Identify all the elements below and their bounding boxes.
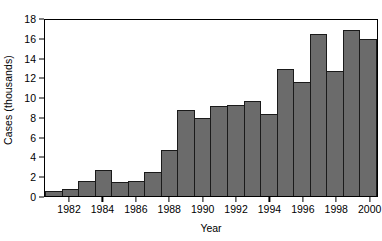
y-tick-label: 6 <box>30 132 36 143</box>
x-tick-mark <box>302 197 303 202</box>
bar <box>326 71 344 196</box>
bar <box>161 150 179 196</box>
x-tick-label: 2000 <box>358 204 381 216</box>
bar-series <box>45 20 377 196</box>
bar <box>177 110 195 196</box>
y-axis-title-text: Cases (thousands) <box>2 55 14 145</box>
bar <box>194 118 212 196</box>
bar <box>244 101 262 196</box>
bar <box>343 30 361 196</box>
x-tick-label: 1988 <box>158 204 181 216</box>
x-tick-label: 1992 <box>224 204 247 216</box>
x-tick-mark <box>369 197 370 202</box>
bar <box>62 189 80 196</box>
y-tick-label: 0 <box>30 192 36 203</box>
x-tick-label: 1996 <box>291 204 314 216</box>
x-tick-label: 1998 <box>325 204 348 216</box>
x-axis-title: Year <box>44 222 378 234</box>
y-tick-label: 8 <box>30 113 36 124</box>
bar <box>227 105 245 196</box>
y-tick-label: 10 <box>24 93 36 104</box>
bar <box>277 69 295 196</box>
x-tick-mark <box>135 197 136 202</box>
x-tick-mark <box>68 197 69 202</box>
x-tick-label: 1986 <box>124 204 147 216</box>
x-tick-mark <box>202 197 203 202</box>
bar <box>78 181 96 196</box>
bar <box>260 114 278 196</box>
y-axis-tick-labels: 024681012141618 <box>14 19 36 197</box>
x-tick-mark <box>169 197 170 202</box>
x-tick-mark <box>102 197 103 202</box>
x-axis-tick-labels: 1982198419861988199019921994199619982000 <box>44 204 378 220</box>
x-tick-mark <box>235 197 236 202</box>
y-tick-label: 4 <box>30 152 36 163</box>
bar <box>95 170 113 196</box>
bar <box>210 106 228 196</box>
x-tick-mark <box>336 197 337 202</box>
y-tick-label: 18 <box>24 14 36 25</box>
bar <box>144 172 162 196</box>
bar <box>128 181 146 196</box>
bar <box>293 82 311 196</box>
bar <box>359 39 377 196</box>
bar <box>310 34 328 196</box>
y-tick-label: 16 <box>24 34 36 45</box>
x-tick-label: 1994 <box>258 204 281 216</box>
bar-chart-figure: Cases (thousands) 024681012141618 198219… <box>0 0 382 241</box>
x-tick-label: 1982 <box>57 204 80 216</box>
x-tick-label: 1984 <box>91 204 114 216</box>
x-tick-label: 1990 <box>191 204 214 216</box>
plot-area <box>44 19 378 197</box>
y-tick-label: 14 <box>24 53 36 64</box>
y-tick-label: 12 <box>24 73 36 84</box>
bar <box>45 191 63 196</box>
y-tick-label: 2 <box>30 172 36 183</box>
bar <box>111 182 129 196</box>
x-tick-mark <box>269 197 270 202</box>
